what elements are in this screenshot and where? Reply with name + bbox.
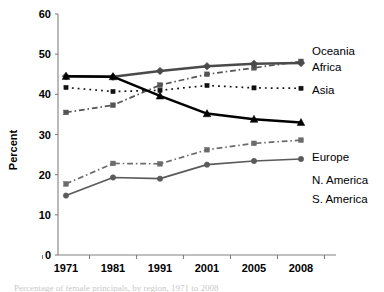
data-point	[250, 60, 258, 68]
series-label-europe: Europe	[312, 151, 349, 163]
x-tick-label: 2005	[242, 262, 266, 274]
x-tick-label: 1991	[148, 262, 172, 274]
data-point	[64, 182, 69, 187]
data-point	[64, 85, 68, 89]
data-point	[299, 86, 303, 90]
data-point	[111, 103, 116, 108]
data-point	[252, 86, 256, 90]
series-line	[66, 76, 301, 122]
data-point	[252, 141, 257, 146]
data-point	[205, 147, 210, 152]
series-asia	[64, 83, 303, 93]
data-point	[158, 161, 163, 166]
data-point	[63, 193, 68, 198]
x-tick-label: 2008	[289, 262, 313, 274]
chart-plot-area: 0102030405060 197119811991200120052008 P…	[0, 0, 384, 292]
x-axis-tick-labels: 197119811991200120052008	[54, 262, 313, 274]
series-s-america	[63, 156, 303, 198]
series-label-s-america: S. America	[312, 193, 368, 205]
x-tick-label: 2001	[195, 262, 219, 274]
y-tick-label: 30	[39, 129, 51, 141]
y-tick-label: 50	[39, 48, 51, 60]
figure-caption: Percentage of female principals, by regi…	[14, 283, 218, 292]
figure-caption-strip: Percentage of female principals, by regi…	[0, 283, 384, 292]
data-point	[156, 67, 164, 75]
data-point	[158, 83, 163, 88]
data-point	[251, 158, 256, 163]
data-point	[157, 176, 162, 181]
data-point	[298, 156, 303, 161]
data-point	[111, 161, 116, 166]
y-tick-label: 40	[39, 88, 51, 100]
data-point	[64, 110, 69, 115]
data-point	[203, 62, 211, 70]
series-n-america	[64, 138, 304, 186]
y-axis-title: Percent	[7, 129, 19, 170]
series-label-n-america: N. America	[312, 174, 369, 186]
y-tick-label: 0	[45, 249, 51, 261]
series-line	[66, 63, 301, 77]
data-point	[111, 89, 115, 93]
axis-lines	[43, 14, 337, 259]
data-series-group	[62, 59, 305, 198]
series-line	[66, 159, 301, 196]
x-tick-label: 1981	[101, 262, 125, 274]
series-inline-labels: OceaniaAfricaAsiaEuropeN. AmericaS. Amer…	[312, 45, 369, 205]
series-label-africa: Africa	[312, 61, 342, 73]
data-point	[205, 72, 210, 77]
x-tick-label: 1971	[54, 262, 78, 274]
data-point	[297, 59, 305, 67]
y-axis-tick-labels: 0102030405060	[39, 8, 51, 261]
series-line	[66, 85, 301, 91]
y-tick-label: 10	[39, 209, 51, 221]
y-tick-label: 60	[39, 8, 51, 20]
y-tick-label: 20	[39, 169, 51, 181]
data-point	[204, 162, 209, 167]
data-point	[110, 175, 115, 180]
series-line	[66, 140, 301, 184]
line-chart-figure: 0102030405060 197119811991200120052008 P…	[0, 0, 384, 292]
data-point	[205, 83, 209, 87]
series-label-oceania: Oceania	[312, 45, 355, 57]
data-point	[299, 138, 304, 143]
series-label-asia: Asia	[312, 84, 335, 96]
